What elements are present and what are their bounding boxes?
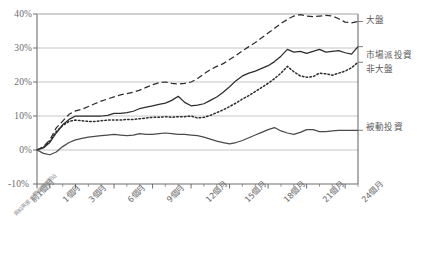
chart-container: 40% 30% 20% 10% 0% -10% 前1個月 1個月 3個月 6個月…	[0, 0, 425, 254]
series-line-2	[37, 62, 358, 150]
ytick-label-0: 0%	[0, 145, 32, 155]
series-line-3	[37, 128, 358, 155]
ytick-label-40: 40%	[0, 9, 32, 19]
series-label-nonmain: 非大盤	[366, 62, 394, 74]
series-line-1	[37, 47, 358, 150]
ytick-label-neg10: -10%	[0, 179, 29, 189]
line-chart	[0, 0, 425, 254]
series-label-activist: 市場派投資	[366, 48, 412, 60]
series-label-passive: 被動投資	[366, 120, 403, 132]
ytick-label-10: 10%	[0, 111, 32, 121]
ytick-label-30: 30%	[0, 43, 32, 53]
series-label-daipan: 大盤	[366, 13, 384, 25]
ytick-label-20: 20%	[0, 77, 32, 87]
